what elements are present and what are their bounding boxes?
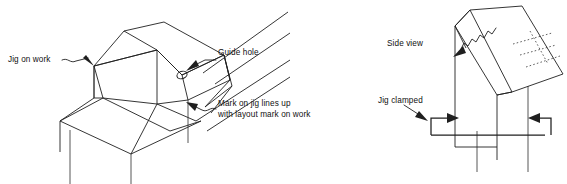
label-mark-on-jig-line2: with layout mark on work <box>218 110 311 119</box>
technical-diagram: Jig on work Guide hole Mark on jig lines… <box>0 0 567 184</box>
label-jig-on-work: Jig on work <box>8 55 51 66</box>
label-jig-clamped: Jig clamped <box>378 96 423 107</box>
jig-angled-face <box>94 50 230 104</box>
clamp-right <box>528 113 551 135</box>
leader-mark-on-jig <box>186 102 216 111</box>
hidden-edge-dashed <box>513 31 560 67</box>
jig-top-face <box>94 22 224 75</box>
work-piece-legs <box>70 66 131 184</box>
label-side-view: Side view <box>387 39 423 50</box>
leader-jig-on-work <box>62 55 94 66</box>
label-mark-on-jig-line1: Mark on jig lines up <box>218 99 291 108</box>
leader-jig-clamped <box>404 105 428 121</box>
left-figure-linework <box>0 0 567 184</box>
leader-side-view <box>453 28 496 57</box>
label-guide-hole: Guide hole <box>218 48 259 59</box>
angled-jig-block <box>455 6 563 95</box>
label-mark-on-jig: Mark on jig lines upwith layout mark on … <box>218 99 311 120</box>
